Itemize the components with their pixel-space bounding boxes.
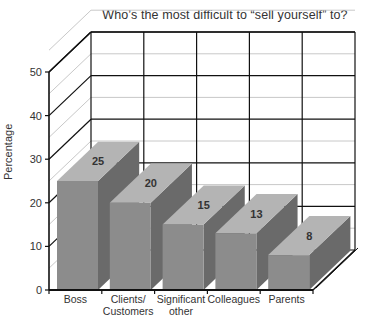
y-tick-label: 50: [30, 66, 42, 78]
minor-gridline-side: [49, 97, 91, 137]
top-left-edge: [49, 32, 91, 72]
minor-gridline-side: [49, 10, 91, 50]
bar-chart-3d: 25201513801020304050BossClients/Customer…: [0, 0, 370, 324]
x-category-label: Parents: [269, 293, 305, 305]
bar-front: [163, 225, 204, 290]
bar-value-label: 8: [306, 230, 312, 242]
bar-front: [110, 203, 151, 290]
bar-value-label: 20: [145, 177, 157, 189]
bar-front: [215, 233, 256, 290]
minor-gridline-side: [49, 54, 91, 94]
y-tick-label: 30: [30, 153, 42, 165]
bar-front: [57, 181, 98, 290]
x-category-label: Significant: [157, 293, 206, 305]
major-gridline-side: [49, 76, 91, 116]
y-tick-label: 20: [30, 197, 42, 209]
bar-value-label: 25: [92, 155, 104, 167]
y-tick-label: 10: [30, 240, 42, 252]
bar-value-label: 15: [198, 199, 210, 211]
x-category-label: other: [169, 305, 193, 317]
x-category-label: Customers: [103, 305, 154, 317]
x-category-label: Colleagues: [208, 293, 261, 305]
x-category-label: Clients/: [111, 293, 146, 305]
y-tick-label: 40: [30, 110, 42, 122]
y-tick-label: 0: [36, 284, 42, 296]
bar-front: [268, 255, 309, 290]
major-gridline-side: [49, 119, 91, 159]
bar-value-label: 13: [250, 208, 262, 220]
x-category-label: Boss: [64, 293, 87, 305]
